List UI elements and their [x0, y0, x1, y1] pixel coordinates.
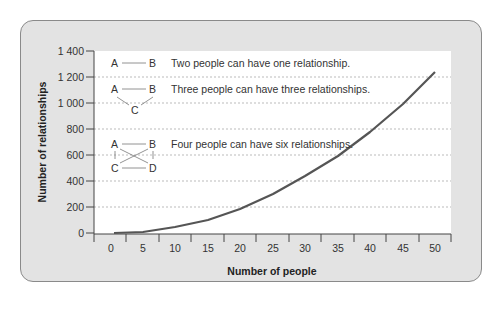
- y-tick-labels: 0 200 400 600 800 1 000 1 200 1 400: [58, 45, 84, 239]
- svg-text:45: 45: [397, 242, 409, 254]
- svg-text:B: B: [149, 57, 156, 69]
- svg-text:1 000: 1 000: [58, 97, 84, 109]
- svg-text:25: 25: [267, 242, 279, 254]
- svg-text:A: A: [111, 83, 118, 95]
- svg-text:D: D: [149, 162, 157, 174]
- svg-text:0: 0: [108, 242, 114, 254]
- svg-text:B: B: [149, 83, 156, 95]
- svg-text:600: 600: [66, 149, 84, 161]
- y-axis-title: Number of relationships: [36, 81, 48, 202]
- x-axis-title: Number of people: [227, 265, 316, 277]
- svg-text:40: 40: [364, 242, 376, 254]
- svg-text:A: A: [111, 57, 118, 69]
- svg-text:30: 30: [299, 242, 311, 254]
- svg-text:10: 10: [169, 242, 181, 254]
- svg-text:B: B: [149, 138, 156, 150]
- svg-text:800: 800: [66, 123, 84, 135]
- note-three-people: Three people can have three relationship…: [171, 83, 370, 95]
- y-axis: [86, 51, 94, 242]
- note-four-people: Four people can have six relationships.: [171, 138, 353, 150]
- svg-text:C: C: [111, 162, 119, 174]
- note-two-people: Two people can have one relationship.: [171, 57, 350, 69]
- svg-text:0: 0: [78, 227, 84, 239]
- svg-text:20: 20: [234, 242, 246, 254]
- svg-text:1 400: 1 400: [58, 45, 84, 57]
- svg-text:1 200: 1 200: [58, 71, 84, 83]
- svg-text:35: 35: [332, 242, 344, 254]
- svg-text:400: 400: [66, 175, 84, 187]
- line-chart: 0 200 400 600 800 1 000 1 200 1 400 0 5 …: [0, 0, 504, 313]
- svg-text:5: 5: [140, 242, 146, 254]
- svg-text:200: 200: [66, 201, 84, 213]
- x-axis: [94, 234, 451, 242]
- svg-text:50: 50: [429, 242, 441, 254]
- x-tick-labels: 0 5 10 15 20 25 30 35 40 45 50: [108, 242, 441, 254]
- svg-text:A: A: [111, 138, 118, 150]
- svg-text:15: 15: [202, 242, 214, 254]
- svg-text:C: C: [131, 104, 139, 116]
